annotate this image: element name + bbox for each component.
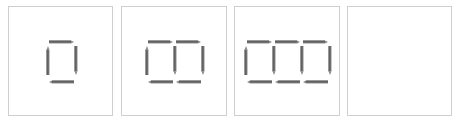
pencil-icon [275,80,300,84]
pattern-panel-1 [8,6,113,116]
pencil-icon [173,46,177,75]
pencil-icon [145,46,149,75]
pencil-icon [303,40,328,44]
pencil-icon [49,80,74,84]
pencil-icon [201,46,205,75]
pencil-icon [49,40,74,44]
pencil-icon [46,46,50,75]
pencil-icon [328,46,332,75]
pencil-icon [247,80,272,84]
pencil-icon [300,46,304,75]
pattern-panel-4 [347,6,452,116]
pattern-panel-3 [234,6,340,116]
pencil-icon [176,40,201,44]
pattern-panel-2 [121,6,227,116]
pencil-icon [74,46,78,75]
pencil-icon [303,80,328,84]
pencil-icon [244,46,248,75]
pencil-icon [148,80,173,84]
pencil-icon [272,46,276,75]
pencil-icon [275,40,300,44]
pencil-icon [148,40,173,44]
pencil-icon [247,40,272,44]
pencil-icon [176,80,201,84]
